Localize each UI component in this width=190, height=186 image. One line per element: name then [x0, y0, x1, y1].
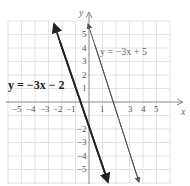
- x-tick: 5: [154, 105, 159, 114]
- y-tick: 1: [82, 84, 87, 93]
- y-tick: −5: [77, 165, 87, 174]
- equation-label-line2: y = −3x + 5: [100, 46, 147, 57]
- x-tick: −1: [66, 105, 76, 114]
- x-tick: 1: [100, 105, 105, 114]
- x-tick: −2: [53, 105, 63, 114]
- y-tick: −4: [77, 152, 87, 161]
- y-tick: 2: [82, 71, 87, 80]
- coordinate-plane: [0, 0, 190, 186]
- x-tick: −5: [12, 105, 22, 114]
- y-axis-label: y: [79, 7, 83, 18]
- x-tick: 3: [128, 105, 133, 114]
- x-tick: −3: [40, 105, 50, 114]
- y-tick: −2: [77, 125, 87, 134]
- x-tick: 4: [141, 105, 146, 114]
- x-tick: −4: [26, 105, 36, 114]
- x-axis-label: x: [181, 106, 185, 117]
- y-tick: 4: [82, 44, 87, 53]
- y-tick: 3: [82, 57, 87, 66]
- y-tick: 5: [82, 30, 87, 39]
- y-tick: −3: [77, 138, 87, 147]
- equation-label-line1: y = −3x − 2: [8, 78, 65, 93]
